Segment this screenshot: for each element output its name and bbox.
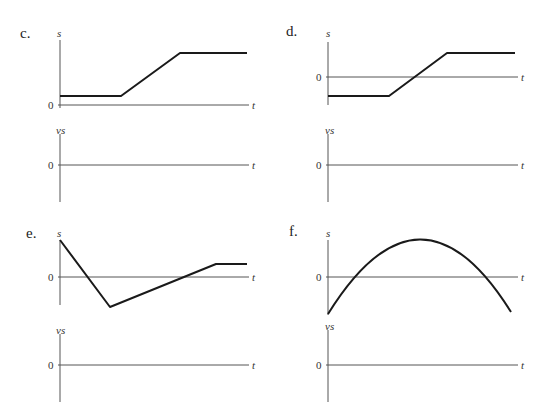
v-axis-label: vs (325, 320, 334, 332)
s-axis-label: s (326, 227, 330, 239)
t-axis-label: t (521, 159, 525, 171)
zero-label: 0 (316, 159, 322, 171)
position-curve (328, 53, 515, 96)
panel-letter-f: f. (289, 223, 298, 239)
position-curve (60, 53, 247, 96)
zero-label: 0 (48, 271, 54, 283)
panel-letter-e: e. (26, 225, 36, 241)
t-axis-label: t (252, 159, 256, 171)
s-axis-label: s (326, 27, 330, 39)
t-axis-label: t (252, 99, 256, 111)
panel-d: d. s 0 t vs 0 t (286, 23, 525, 202)
zero-label: 0 (316, 359, 322, 371)
panel-letter-d: d. (286, 23, 297, 39)
t-axis-label: t (521, 271, 525, 283)
panel-f: f. s 0 t vs 0 t (289, 223, 525, 402)
v-axis-label: vs (56, 324, 65, 336)
kinematics-graphs-figure: c. s 0 t vs 0 t d. s 0 t vs 0 t e. s 0 t (0, 0, 548, 417)
s-axis-label: s (57, 227, 61, 239)
t-axis-label: t (521, 359, 525, 371)
zero-label: 0 (316, 71, 322, 83)
s-axis-label: s (57, 27, 61, 39)
zero-label: 0 (48, 359, 54, 371)
zero-label: 0 (48, 159, 54, 171)
t-axis-label: t (252, 359, 256, 371)
zero-label: 0 (48, 99, 54, 111)
panel-letter-c: c. (20, 25, 30, 41)
panel-c: c. s 0 t vs 0 t (20, 25, 256, 202)
zero-label: 0 (316, 271, 322, 283)
panel-e: e. s 0 t vs 0 t (26, 225, 256, 402)
v-axis-label: vs (325, 124, 334, 136)
position-curve (60, 240, 247, 307)
v-axis-label: vs (56, 124, 65, 136)
t-axis-label: t (252, 271, 256, 283)
t-axis-label: t (521, 71, 525, 83)
